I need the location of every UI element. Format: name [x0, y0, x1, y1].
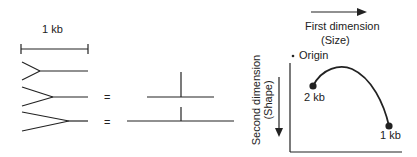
x-axis-subtitle: (Size) — [321, 35, 350, 46]
point-label-2kb: 2 kb — [304, 92, 325, 103]
t-shape-1 — [147, 72, 214, 97]
origin-label: Origin — [299, 50, 328, 61]
scale-bar — [21, 44, 88, 54]
y-axis-title: Second dimension — [250, 50, 262, 150]
y-molecule-3 — [22, 112, 88, 131]
t-shape-2 — [127, 107, 234, 121]
y-axis-label: Second dimension (Shape) — [250, 50, 278, 150]
scale-label: 1 kb — [42, 24, 63, 35]
y-molecule-2 — [22, 87, 88, 106]
equals-sign-2: = — [104, 117, 110, 128]
point-label-1kb: 1 kb — [380, 130, 401, 141]
y-axis-subtitle: (Shape) — [262, 50, 274, 150]
point-2kb — [309, 82, 316, 89]
x-axis-title: First dimension — [305, 21, 380, 32]
origin-dot — [292, 55, 295, 58]
y-molecule-1 — [22, 62, 88, 80]
equals-sign-1: = — [104, 92, 110, 103]
x-arrow-head — [357, 8, 367, 16]
